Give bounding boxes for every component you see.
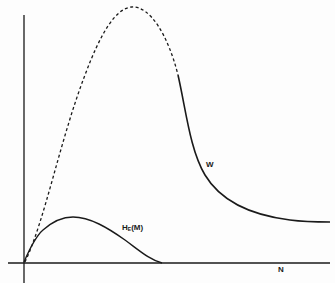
plot-area — [0, 0, 335, 283]
label-w: W — [206, 161, 214, 169]
x-axis-label: N — [278, 266, 284, 274]
label-w-text: W — [206, 160, 214, 169]
label-he-suffix: (M) — [131, 223, 143, 232]
curve-w-dashed — [25, 7, 178, 262]
x-axis-label-text: N — [278, 265, 284, 274]
diagram-canvas: W HE(M) N — [0, 0, 335, 283]
label-he-m: HE(M) — [122, 224, 143, 232]
curve-w-solid — [178, 75, 330, 222]
